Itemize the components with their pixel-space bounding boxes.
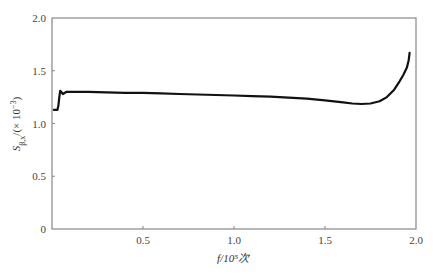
- y-tick-label: 0.5: [32, 170, 46, 182]
- y-axis-label: Sβ,x/(× 10−3): [9, 96, 27, 151]
- line-chart: 00.51.01.52.00.51.01.52.0 f/10⁵次 Sβ,x/(×…: [0, 0, 433, 274]
- plot-border: [52, 18, 416, 229]
- y-tick-label: 2.0: [32, 12, 46, 24]
- x-tick-label: 2.0: [409, 234, 423, 246]
- x-tick-label: 1.5: [318, 234, 332, 246]
- y-tick-label: 1.0: [32, 118, 46, 130]
- x-axis-label: f/10⁵次: [217, 252, 251, 264]
- x-tick-label: 0.5: [136, 234, 150, 246]
- axis-ticks: 00.51.01.52.00.51.01.52.0: [32, 12, 423, 246]
- plot-frame: [52, 18, 416, 229]
- series-line: [54, 53, 410, 110]
- y-tick-label: 1.5: [32, 65, 46, 77]
- x-tick-label: 1.0: [227, 234, 241, 246]
- y-tick-label: 0: [41, 223, 47, 235]
- data-series: [54, 53, 410, 110]
